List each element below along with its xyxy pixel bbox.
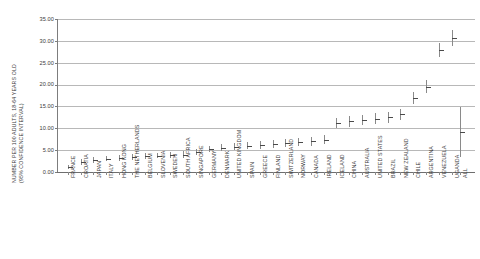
x-axis-tick [157, 172, 158, 175]
x-axis-tick [273, 172, 274, 175]
data-point-marker [426, 87, 431, 88]
x-axis-tick-label: DENMARK [224, 151, 230, 178]
gridline [58, 19, 475, 20]
data-point-marker [452, 38, 457, 39]
data-point-marker [298, 142, 303, 143]
y-axis-tick-label: 30.00 [40, 38, 55, 44]
x-axis-tick-label: UGANDA [454, 155, 460, 178]
y-axis-tick-label: 25.00 [40, 60, 55, 66]
y-axis-tick-label: 10.00 [40, 125, 55, 131]
x-axis-tick [324, 172, 325, 175]
x-axis-tick-label: GREECE [262, 155, 268, 178]
x-axis-tick [336, 172, 337, 175]
x-axis-tick [388, 172, 389, 175]
gridline [58, 63, 475, 64]
y-axis-title: NUMBER PER 100 ADULTS, 18-64 YEARS OLD (… [0, 0, 14, 185]
x-axis-tick [209, 172, 210, 175]
y-axis-tick-labels: 35.0030.0025.0020.0015.0010.005.000.00 [18, 0, 54, 259]
data-point-marker [273, 144, 278, 145]
x-axis-tick-label: GERMANY [211, 150, 217, 178]
y-axis-tick [55, 19, 58, 20]
x-axis-tick [311, 172, 312, 175]
y-axis-tick [55, 150, 58, 151]
x-axis-tick-label: SWEDEN [172, 154, 178, 178]
gridline [58, 41, 475, 42]
gridline [58, 128, 475, 129]
x-axis-tick-label: SOUTH AFRICA [185, 137, 191, 178]
y-axis-tick-label: 20.00 [40, 81, 55, 87]
x-axis-tick-label: FINLAND [275, 154, 281, 178]
x-axis-tick [285, 172, 286, 175]
gridline [58, 106, 475, 107]
data-point-marker [221, 148, 226, 149]
x-axis-tick [93, 172, 94, 175]
x-axis-tick [298, 172, 299, 175]
y-axis-tick [55, 106, 58, 107]
y-axis-tick-label: 0.00 [43, 169, 54, 175]
x-axis-tick-label: VENEZUELA [441, 145, 447, 178]
x-axis-tick-label: THE NETHERLANDS [134, 125, 140, 178]
data-point-marker [413, 98, 418, 99]
data-point-marker [439, 50, 444, 51]
x-axis-tick-label: NORWAY [300, 154, 306, 178]
x-axis-tick-label: HONG KONG [121, 144, 127, 178]
data-point-marker [388, 117, 393, 118]
x-axis-tick-label: CHINA [351, 161, 357, 178]
data-point-marker [106, 159, 111, 160]
x-axis-tick-label: CROATIA [83, 154, 89, 178]
x-axis-tick-label: SPAIN [249, 162, 255, 178]
x-axis-tick [119, 172, 120, 175]
x-axis-tick-label: ALL [462, 168, 468, 178]
x-axis-tick [362, 172, 363, 175]
y-axis-tick [55, 85, 58, 86]
x-axis-tick [81, 172, 82, 175]
data-point-marker [247, 146, 252, 147]
x-axis-tick [132, 172, 133, 175]
y-axis-tick-label: 15.00 [40, 103, 55, 109]
x-axis-tick-label: ITALY [108, 163, 114, 178]
x-axis-tick [247, 172, 248, 175]
x-axis-tick-label: NEW ZEALAND [403, 138, 409, 178]
data-point-marker [375, 119, 380, 120]
data-point-marker [311, 141, 316, 142]
x-axis-tick-label: BRAZIL [390, 159, 396, 178]
data-point-marker [362, 120, 367, 121]
gridline [58, 85, 475, 86]
x-axis-tick [439, 172, 440, 175]
x-axis-tick-label: UNITED STATES [377, 135, 383, 178]
x-axis-tick [196, 172, 197, 175]
x-axis-tick [400, 172, 401, 175]
x-axis-tick-label: ARGENTINA [428, 146, 434, 178]
data-point-marker [260, 145, 265, 146]
y-axis-tick [55, 128, 58, 129]
x-axis-tick-label: CHILE [415, 162, 421, 178]
data-point-marker [400, 114, 405, 115]
x-axis-tick-label: FRANCE [70, 156, 76, 179]
x-axis-tick-label: BELGIUM [147, 153, 153, 178]
x-axis-tick-label: AUSTRALIA [364, 147, 370, 178]
x-axis-tick [221, 172, 222, 175]
x-axis-tick [460, 172, 461, 175]
x-axis-tick [426, 172, 427, 175]
data-point-marker [349, 121, 354, 122]
x-axis-tick [145, 172, 146, 175]
x-axis-tick [68, 172, 69, 175]
y-axis-title-line1: NUMBER PER 100 ADULTS, 18-64 YEARS OLD [11, 64, 17, 183]
y-axis-tick [55, 63, 58, 64]
chart-figure: NUMBER PER 100 ADULTS, 18-64 YEARS OLD (… [0, 0, 480, 259]
y-axis-tick-label: 5.00 [43, 147, 54, 153]
x-axis-tick-label: SLOVENIA [160, 151, 166, 178]
x-axis-tick-label: UNITED KINGDOM [236, 130, 242, 178]
y-axis-tick-label: 35.00 [40, 16, 55, 22]
x-axis-tick-label: SINGAPORE [198, 145, 204, 178]
x-axis-tick-label: JAPAN [96, 161, 102, 178]
x-axis-tick [234, 172, 235, 175]
x-axis-tick-label: ICELAND [339, 154, 345, 178]
x-axis-tick [452, 172, 453, 175]
x-axis-tick [260, 172, 261, 175]
x-axis-tick [375, 172, 376, 175]
x-axis-tick-label: SWITZERLAND [288, 139, 294, 178]
data-point-marker [336, 123, 341, 124]
x-axis-tick-label: CANADA [313, 155, 319, 178]
y-axis-tick [55, 41, 58, 42]
